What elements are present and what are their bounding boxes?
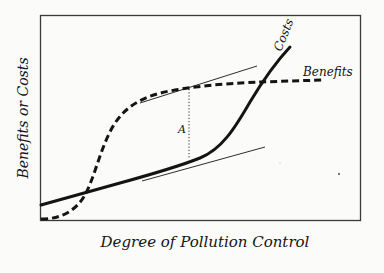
x-axis-label: Degree of Pollution Control: [100, 233, 310, 251]
pollution-control-diagram: A Costs Benefits Benefits or Costs Degre…: [0, 0, 384, 273]
benefits-curve: [41, 80, 322, 219]
costs-curve-label: Costs: [271, 17, 297, 53]
y-axis-label: Benefits or Costs: [15, 57, 31, 179]
gap-a-label: A: [177, 123, 186, 136]
diagram-canvas: A Costs Benefits Benefits or Costs Degre…: [0, 0, 384, 273]
costs-tangent-line: [142, 147, 265, 181]
print-speck: [338, 173, 340, 175]
costs-curve: [41, 47, 290, 205]
print-speck: [280, 163, 281, 164]
benefits-curve-label: Benefits: [302, 65, 353, 79]
